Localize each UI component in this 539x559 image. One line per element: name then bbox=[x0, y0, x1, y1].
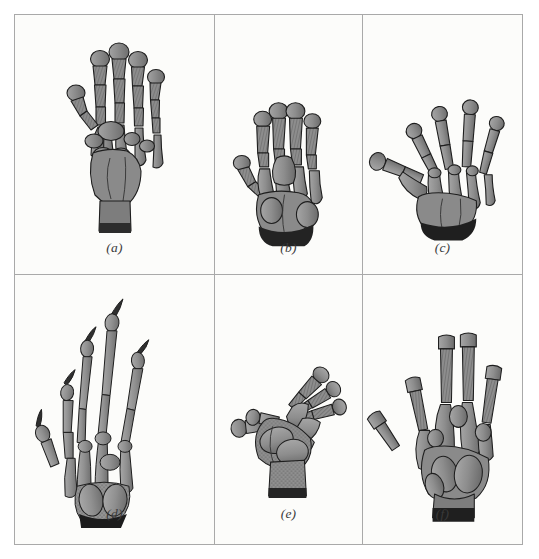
hand-skeleton-d-illustration bbox=[15, 275, 214, 544]
panel-label-c: (c) bbox=[363, 240, 522, 256]
panel-label-b: (b) bbox=[215, 240, 362, 256]
panel-label-e: (e) bbox=[215, 506, 362, 522]
panel-e: (e) bbox=[214, 274, 362, 544]
panel-label-d: (d) bbox=[15, 506, 214, 522]
figure-plate: (a) bbox=[0, 0, 539, 559]
panel-f: (f) bbox=[362, 274, 522, 544]
plate-frame: (a) bbox=[14, 14, 523, 545]
panel-c: (c) bbox=[362, 15, 522, 274]
panel-d: (d) bbox=[15, 274, 214, 544]
panel-a: (a) bbox=[15, 15, 214, 274]
panel-grid: (a) bbox=[15, 15, 522, 544]
hand-skeleton-a-illustration bbox=[15, 15, 214, 274]
panel-b: (b) bbox=[214, 15, 362, 274]
panel-label-a: (a) bbox=[15, 240, 214, 256]
panel-label-f: (f) bbox=[363, 506, 522, 522]
hand-skeleton-b-illustration bbox=[215, 15, 362, 274]
hand-skeleton-e-illustration bbox=[215, 275, 362, 544]
hand-skeleton-f-illustration bbox=[363, 275, 522, 544]
hand-skeleton-c-illustration bbox=[363, 15, 522, 274]
